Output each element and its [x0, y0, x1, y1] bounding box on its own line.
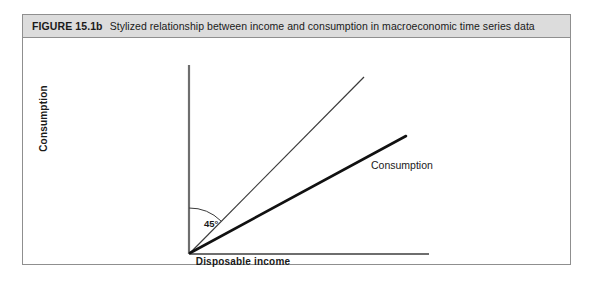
chart-svg	[23, 38, 570, 265]
x-axis-title: Disposable income	[133, 256, 353, 267]
y-axis-title: Consumption	[38, 64, 49, 174]
figure-caption-text: Stylized relationship between income and…	[110, 20, 535, 32]
figure-number-label: FIGURE 15.1b	[32, 20, 103, 32]
angle-label: 45°	[204, 218, 218, 229]
figure-caption-band: FIGURE 15.1b Stylized relationship betwe…	[23, 15, 570, 38]
consumption-line	[190, 136, 406, 253]
figure-frame: FIGURE 15.1b Stylized relationship betwe…	[22, 14, 571, 265]
plot-area: Consumption Disposable income Consumptio…	[23, 38, 570, 264]
consumption-line-label: Consumption	[371, 159, 433, 171]
figure-root: FIGURE 15.1b Stylized relationship betwe…	[0, 0, 593, 286]
